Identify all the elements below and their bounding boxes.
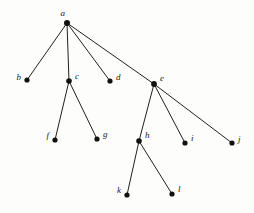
tree-node-label-l: l bbox=[178, 184, 181, 194]
tree-node-label-g: g bbox=[103, 129, 108, 139]
tree-node-k[interactable] bbox=[124, 192, 129, 197]
tree-node-label-d: d bbox=[116, 72, 121, 82]
tree-node-f[interactable] bbox=[52, 137, 57, 142]
tree-edge-c-f bbox=[55, 81, 69, 140]
tree-node-label-c: c bbox=[75, 71, 79, 81]
tree-node-label-j: j bbox=[237, 134, 241, 144]
tree-node-d[interactable] bbox=[107, 78, 112, 83]
tree-node-i[interactable] bbox=[182, 140, 187, 145]
tree-edge-a-e bbox=[67, 23, 154, 84]
node-layer bbox=[24, 20, 234, 198]
tree-diagram: abcdefghijkl bbox=[0, 0, 254, 213]
tree-node-b[interactable] bbox=[24, 77, 29, 82]
tree-edge-h-k bbox=[127, 141, 139, 195]
tree-node-g[interactable] bbox=[94, 136, 99, 141]
edge-layer bbox=[27, 23, 232, 195]
tree-edge-a-b bbox=[27, 23, 67, 80]
tree-edge-a-c bbox=[67, 23, 69, 81]
tree-node-label-k: k bbox=[117, 185, 122, 195]
tree-node-label-a: a bbox=[61, 8, 66, 18]
tree-diagram-canvas: abcdefghijkl bbox=[0, 0, 254, 213]
tree-node-label-b: b bbox=[17, 72, 22, 82]
tree-node-a[interactable] bbox=[64, 20, 70, 26]
label-layer: abcdefghijkl bbox=[17, 8, 242, 195]
tree-edge-e-i bbox=[154, 84, 185, 143]
tree-node-j[interactable] bbox=[229, 140, 234, 145]
tree-edge-a-d bbox=[67, 23, 110, 81]
tree-edge-c-g bbox=[69, 81, 97, 139]
tree-node-label-i: i bbox=[191, 133, 194, 143]
tree-node-label-e: e bbox=[160, 73, 164, 83]
tree-edge-h-l bbox=[139, 141, 172, 194]
tree-node-e[interactable] bbox=[151, 81, 157, 87]
tree-node-label-h: h bbox=[145, 130, 150, 140]
tree-node-c[interactable] bbox=[66, 78, 72, 84]
tree-node-h[interactable] bbox=[136, 138, 142, 144]
tree-node-l[interactable] bbox=[169, 191, 174, 196]
tree-node-label-f: f bbox=[46, 130, 50, 140]
